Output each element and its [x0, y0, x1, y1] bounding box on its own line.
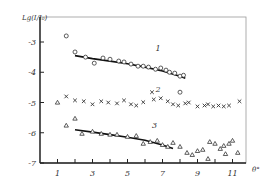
- x-tick-label: 5: [125, 169, 130, 178]
- data-point-triangle: [155, 138, 159, 142]
- data-point-triangle: [201, 147, 205, 151]
- data-point-circle: [136, 64, 140, 68]
- data-point-triangle: [230, 138, 234, 142]
- series-label-2: 2: [155, 85, 161, 94]
- data-point-cross: [203, 104, 207, 108]
- data-point-cross: [134, 104, 138, 108]
- data-point-cross: [91, 103, 95, 107]
- data-point-circle: [92, 61, 96, 65]
- data-point-triangle: [190, 153, 194, 157]
- data-point-triangle: [208, 140, 212, 144]
- data-point-triangle: [134, 134, 138, 138]
- y-axis-title: Lg(I/I₀): [21, 14, 48, 22]
- data-point-cross: [227, 104, 231, 108]
- data-point-circle: [178, 90, 182, 94]
- x-tick-label: 11: [227, 169, 237, 178]
- x-tick-label: 7: [160, 169, 166, 178]
- data-point-triangle: [64, 123, 68, 127]
- data-point-cross: [183, 102, 187, 106]
- data-point-cross: [206, 103, 210, 107]
- data-point-triangle: [185, 151, 189, 155]
- data-point-circle: [122, 60, 126, 64]
- data-point-circle: [84, 55, 88, 59]
- data-point-circle: [129, 62, 133, 66]
- series-1: 1: [64, 34, 185, 94]
- series-2: 2: [64, 85, 241, 108]
- data-point-cross: [150, 90, 154, 94]
- y-tick-label: -6: [28, 129, 36, 138]
- data-point-cross: [176, 104, 180, 108]
- data-point-cross: [115, 102, 119, 106]
- data-point-cross: [159, 96, 163, 100]
- data-point-circle: [73, 50, 77, 54]
- data-point-cross: [106, 101, 110, 105]
- data-point-triangle: [108, 132, 112, 136]
- data-point-triangle: [99, 131, 103, 135]
- data-point-cross: [129, 103, 133, 107]
- data-point-triangle: [206, 157, 210, 161]
- data-point-cross: [73, 99, 77, 103]
- data-point-cross: [122, 99, 126, 103]
- data-point-cross: [196, 105, 200, 109]
- data-point-cross: [99, 99, 103, 103]
- data-point-circle: [154, 67, 158, 71]
- y-tick-label: -3: [28, 38, 36, 47]
- data-point-cross: [211, 105, 215, 109]
- data-point-cross: [166, 99, 170, 103]
- x-tick-label: 3: [90, 169, 95, 178]
- x-tick-label: 1: [55, 169, 60, 178]
- chart: Lg(I/I₀) -3-4-5-6-7 1357911θ° 123: [0, 0, 260, 185]
- series-label-1: 1: [156, 44, 161, 53]
- data-point-circle: [168, 70, 172, 74]
- data-point-triangle: [55, 100, 59, 104]
- data-point-triangle: [222, 144, 226, 148]
- data-point-triangle: [213, 141, 217, 145]
- data-point-circle: [173, 71, 177, 75]
- data-point-triangle: [195, 149, 199, 153]
- data-point-triangle: [160, 143, 164, 147]
- fit-line-1: [75, 56, 185, 79]
- data-point-cross: [152, 98, 156, 102]
- data-point-cross: [238, 99, 242, 103]
- data-point-triangle: [90, 129, 94, 133]
- data-point-triangle: [223, 152, 227, 156]
- data-point-cross: [222, 105, 226, 109]
- data-point-circle: [141, 64, 145, 68]
- data-point-triangle: [178, 144, 182, 148]
- data-point-circle: [159, 66, 163, 70]
- fit-line-3: [75, 130, 173, 149]
- data-point-circle: [101, 56, 105, 60]
- x-tick-label: 9: [195, 169, 200, 178]
- series-label-3: 3: [152, 121, 157, 130]
- data-point-triangle: [73, 116, 77, 120]
- data-point-triangle: [171, 141, 175, 145]
- data-point-circle: [64, 34, 68, 38]
- y-tick-label: -7: [28, 159, 37, 168]
- data-point-cross: [187, 101, 191, 105]
- data-point-circle: [147, 65, 151, 69]
- data-point-circle: [182, 73, 186, 77]
- data-point-cross: [141, 100, 145, 104]
- data-point-triangle: [236, 151, 240, 155]
- x-axis-title: θ°: [252, 166, 260, 174]
- data-point-cross: [171, 103, 175, 107]
- data-point-cross: [82, 99, 86, 103]
- data-point-triangle: [141, 141, 145, 145]
- y-tick-label: -4: [28, 68, 36, 77]
- data-point-triangle: [80, 131, 84, 135]
- data-point-triangle: [115, 132, 119, 136]
- data-point-triangle: [148, 140, 152, 144]
- data-point-cross: [64, 95, 68, 99]
- data-point-cross: [217, 104, 221, 108]
- data-point-triangle: [166, 144, 170, 148]
- data-point-circle: [117, 59, 121, 63]
- series-3: 3: [55, 100, 240, 160]
- data-point-triangle: [125, 134, 129, 138]
- data-point-circle: [108, 57, 112, 61]
- y-tick-label: -5: [28, 99, 36, 108]
